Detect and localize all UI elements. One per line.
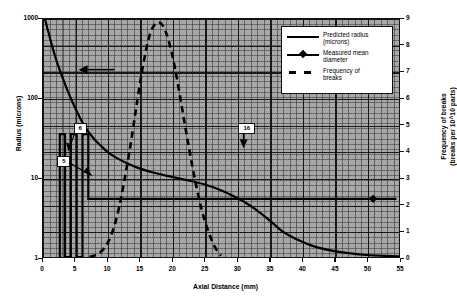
x-axis-tickmark [107,258,108,262]
legend-label-line1: Measured mean [323,49,369,56]
x-axis-tickmark [367,258,368,262]
y-axis-right-tick-label: 4 [406,147,418,154]
x-axis-tickmark [269,258,270,262]
line-dashed-key [286,67,320,79]
x-axis-tick-label: 10 [97,265,117,272]
legend-label-line2: diameter [323,56,348,63]
line-marker-key [286,49,320,61]
y-axis-right-tickmark [400,44,404,45]
x-axis-tick-label: 0 [32,265,52,272]
y-axis-left-tick-label: 1000 [6,14,38,21]
legend-label-frequency-of-breaks: Frequency of breaks [323,67,360,82]
x-axis-tick-label: 45 [325,265,345,272]
y-axis-right-tickmark [400,231,404,232]
y-axis-left-tick-label: 10 [6,174,38,181]
y-axis-right-tick-label: 7 [406,67,418,74]
x-axis-tickmark [42,258,43,262]
diamond-marker-icon [369,195,377,203]
series-frequency-of-breaks [90,22,221,257]
x-axis-tickmark [302,258,303,262]
diamond-marker-icon [299,50,307,58]
x-axis-tickmark [400,258,401,262]
y-axis-right-tickmark [400,71,404,72]
y-axis-right-title-line2: (breaks per 10^10 parts) [448,87,455,165]
y-axis-right-tick-label: 9 [406,14,418,21]
callout-5: 5 [57,156,70,167]
x-axis-tick-label: 50 [357,265,377,272]
y-axis-right-title: Frequency of breaks (breaks per 10^10 pa… [440,79,457,175]
x-axis-tick-label: 25 [195,265,215,272]
x-axis-tickmark [139,258,140,262]
y-axis-right-tickmark [400,18,404,19]
y-axis-right-tickmark [400,151,404,152]
callout-6: 6 [74,123,87,134]
series-measured-mean-diameter [60,134,397,257]
x-axis-tickmark [237,258,238,262]
line-solid-key [286,31,320,43]
y-axis-right-tick-label: 6 [406,94,418,101]
x-axis-tick-label: 20 [162,265,182,272]
y-axis-right-tickmark [400,124,404,125]
y-axis-left-tick-label: 100 [6,94,38,101]
legend-item-frequency-of-breaks: Frequency of breaks [286,67,389,82]
legend-item-predicted-radius: Predicted radius (microns) [286,31,389,46]
legend-label-line1: Predicted radius [323,31,369,38]
x-axis-tickmark [334,258,335,262]
legend-label-line1: Frequency of [323,67,360,74]
y-axis-right-title-line1: Frequency of breaks [440,93,447,159]
x-axis-tick-label: 55 [390,265,410,272]
y-axis-right-tick-label: 0 [406,254,418,261]
x-axis-tickmark [204,258,205,262]
x-axis-tickmark [172,258,173,262]
chart-legend: Predicted radius (microns) Measured mean… [281,26,393,94]
y-axis-right-tickmark [400,204,404,205]
y-axis-left-title: Radius (microns) [15,84,22,164]
legend-item-measured-mean-diameter: Measured mean diameter [286,49,389,64]
y-axis-left-tick-label: 1 [6,254,38,261]
x-axis-title: Axial Distance (mm) [0,283,451,290]
x-axis-tick-label: 35 [260,265,280,272]
y-axis-right-tick-label: 8 [406,41,418,48]
y-axis-right-tick-label: 5 [406,121,418,128]
x-axis-tick-label: 15 [130,265,150,272]
y-axis-right-tick-label: 3 [406,174,418,181]
legend-label-line2: (microns) [323,38,349,45]
y-axis-left-tickmark [38,178,42,179]
x-axis-tick-label: 30 [227,265,247,272]
y-axis-right-tickmark [400,98,404,99]
legend-label-measured-mean-diameter: Measured mean diameter [323,49,369,64]
legend-label-line2: breaks [323,74,342,81]
x-axis-tick-label: 5 [65,265,85,272]
y-axis-right-tickmark [400,178,404,179]
y-axis-right-tick-label: 2 [406,201,418,208]
callout-16: 16 [238,123,255,134]
x-axis-tick-label: 40 [292,265,312,272]
y-axis-left-tickmark [38,18,42,19]
y-axis-right-tick-label: 1 [406,227,418,234]
y-axis-left-tickmark [38,98,42,99]
legend-label-predicted-radius: Predicted radius (microns) [323,31,369,46]
x-axis-tickmark [74,258,75,262]
